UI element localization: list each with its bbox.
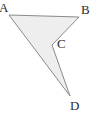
vertex-label-c: C xyxy=(57,37,66,50)
polygon-canvas xyxy=(0,0,98,115)
vertex-label-a: A xyxy=(0,1,8,14)
geometry-figure: A B C D xyxy=(0,0,98,115)
vertex-label-d: D xyxy=(70,99,79,112)
polygon-abcd xyxy=(9,15,79,96)
vertex-label-b: B xyxy=(81,3,90,16)
